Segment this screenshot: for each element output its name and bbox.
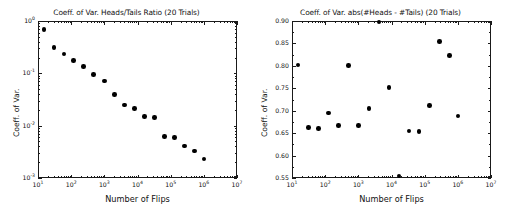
- x-tick-minor: [124, 176, 125, 178]
- x-tick-minor-top: [440, 21, 441, 23]
- x-tick-minor-top: [341, 21, 342, 23]
- x-tick-minor-top: [120, 21, 121, 23]
- y-tick-minor-right: [235, 153, 237, 154]
- x-tick-major: [325, 175, 326, 179]
- y-tick-minor: [38, 48, 40, 49]
- x-tick-minor: [368, 176, 369, 178]
- x-tick-minor-top: [97, 21, 98, 23]
- y-tick-major: [292, 133, 296, 134]
- y-tick-major-right: [234, 21, 238, 22]
- y-tick-minor: [292, 100, 294, 101]
- data-point: [427, 103, 432, 108]
- x-tick-minor: [163, 176, 164, 178]
- y-tick-minor: [38, 26, 40, 27]
- x-tick-minor: [61, 176, 62, 178]
- y-tick-minor: [38, 81, 40, 82]
- x-tick-major: [491, 175, 492, 179]
- y-tick-minor-right: [235, 162, 237, 163]
- x-tick-minor: [136, 176, 137, 178]
- x-tick-minor-top: [420, 21, 421, 23]
- x-tick-minor-top: [196, 21, 197, 23]
- x-tick-major-top: [237, 21, 238, 25]
- y-tick-minor-right: [489, 122, 491, 123]
- x-tick-minor-top: [58, 21, 59, 23]
- y-tick-minor-right: [489, 167, 491, 168]
- x-tick-minor: [97, 176, 98, 178]
- y-tick-minor-right: [235, 76, 237, 77]
- x-tick-minor: [94, 176, 95, 178]
- y-tick-minor: [38, 37, 40, 38]
- data-point: [356, 123, 361, 128]
- y-tick-minor-right: [235, 29, 237, 30]
- y-axis-label-left: Coeff. of Var.: [12, 88, 21, 137]
- data-point: [306, 125, 311, 130]
- y-tick-label: 0.60: [262, 152, 289, 159]
- x-tick-minor-top: [450, 21, 451, 23]
- y-tick-minor: [38, 141, 40, 142]
- y-tick-major: [292, 66, 296, 67]
- x-tick-label: 107: [224, 181, 250, 188]
- x-tick-major-top: [392, 21, 393, 25]
- data-point: [91, 72, 96, 77]
- y-tick-minor: [38, 110, 40, 111]
- y-tick-minor-right: [235, 89, 237, 90]
- x-tick-minor-top: [411, 21, 412, 23]
- x-tick-minor-top: [345, 21, 346, 23]
- x-tick-minor: [214, 176, 215, 178]
- x-tick-major-top: [138, 21, 139, 25]
- x-tick-minor: [196, 176, 197, 178]
- x-tick-major: [458, 175, 459, 179]
- y-tick-label: 0.75: [262, 84, 289, 91]
- x-tick-minor-top: [386, 21, 387, 23]
- x-tick-minor: [130, 176, 131, 178]
- x-tick-minor: [114, 176, 115, 178]
- y-tick-minor-right: [489, 55, 491, 56]
- y-tick-minor-right: [235, 101, 237, 102]
- x-tick-minor-top: [435, 21, 436, 23]
- data-point: [122, 103, 127, 108]
- x-tick-major: [392, 175, 393, 179]
- x-tick-minor-top: [481, 21, 482, 23]
- y-tick-minor: [38, 42, 40, 43]
- y-tick-minor: [292, 55, 294, 56]
- x-tick-major: [204, 175, 205, 179]
- x-tick-minor: [157, 176, 158, 178]
- data-point: [71, 58, 76, 63]
- y-tick-minor-right: [235, 42, 237, 43]
- x-tick-minor: [199, 176, 200, 178]
- y-tick-major: [292, 111, 296, 112]
- x-tick-minor: [478, 176, 479, 178]
- x-tick-minor-top: [136, 21, 137, 23]
- x-tick-minor-top: [353, 21, 354, 23]
- x-tick-minor: [166, 176, 167, 178]
- x-tick-minor-top: [103, 21, 104, 23]
- y-tick-label: 100: [8, 17, 35, 24]
- x-tick-minor: [423, 176, 424, 178]
- x-tick-minor: [324, 176, 325, 178]
- y-tick-major: [38, 126, 42, 127]
- x-tick-minor-top: [348, 21, 349, 23]
- y-tick-minor: [292, 167, 294, 168]
- x-tick-minor-top: [227, 21, 228, 23]
- x-tick-minor-top: [351, 21, 352, 23]
- x-tick-minor: [348, 176, 349, 178]
- x-tick-minor: [357, 176, 358, 178]
- x-tick-major-top: [358, 21, 359, 25]
- y-tick-minor-right: [235, 78, 237, 79]
- x-tick-minor: [378, 176, 379, 178]
- x-tick-minor-top: [468, 21, 469, 23]
- data-point: [387, 85, 392, 90]
- x-tick-minor: [417, 176, 418, 178]
- x-tick-minor: [484, 176, 485, 178]
- x-tick-minor: [450, 176, 451, 178]
- x-tick-major: [138, 175, 139, 179]
- y-tick-minor: [38, 23, 40, 24]
- x-tick-minor-top: [48, 21, 49, 23]
- x-tick-label: 106: [191, 181, 217, 188]
- x-tick-major-top: [104, 21, 105, 25]
- x-tick-minor-top: [484, 21, 485, 23]
- y-tick-minor: [38, 131, 40, 132]
- x-tick-minor-top: [417, 21, 418, 23]
- x-tick-minor: [435, 176, 436, 178]
- x-tick-minor: [382, 176, 383, 178]
